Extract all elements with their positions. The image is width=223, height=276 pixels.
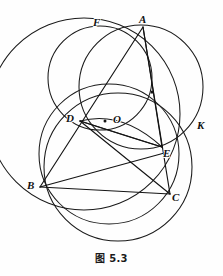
segment-B-C [40, 187, 170, 194]
segment-D-E [80, 121, 162, 147]
point-label-F: F [93, 17, 100, 28]
point-label-O: O [113, 114, 121, 125]
segment-A-E [143, 27, 162, 147]
figure-caption: 图 5.3 [0, 250, 223, 265]
point-label-C: C [172, 192, 179, 203]
point-label-A: A [139, 14, 146, 25]
circle-top-middle [48, 26, 152, 130]
point-label-D: D [66, 113, 74, 124]
point-label-E: E [163, 148, 170, 159]
point-label-B: B [27, 180, 34, 191]
geometry-diagram-canvas [0, 0, 223, 276]
center-square-M-icon [151, 91, 154, 94]
center-dot-O-icon [104, 120, 107, 123]
point-label-K: K [197, 120, 204, 131]
geometry-figure: F A D O K E B C 图 5.3 [0, 0, 223, 276]
segment-D-C [80, 121, 170, 194]
